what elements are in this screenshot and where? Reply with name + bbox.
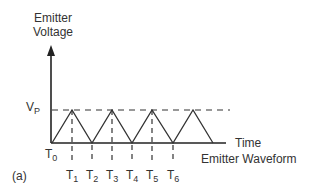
peak-voltage-label: VP bbox=[26, 100, 40, 115]
y-axis-label: Emitter Voltage bbox=[33, 11, 73, 39]
panel-label: (a) bbox=[12, 169, 27, 183]
triangle-waveform bbox=[52, 110, 213, 143]
time-label-t6: T6 bbox=[167, 168, 179, 183]
time-label-t3: T3 bbox=[106, 168, 118, 183]
time-label-t4: T4 bbox=[126, 168, 138, 183]
y-axis-label-line2: Voltage bbox=[33, 25, 73, 39]
y-axis-label-line1: Emitter bbox=[33, 11, 73, 25]
time-label-t2: T2 bbox=[86, 168, 98, 183]
caption: Emitter Waveform bbox=[201, 152, 297, 166]
time-label-t1: T1 bbox=[66, 168, 78, 183]
origin-label: T0 bbox=[45, 147, 57, 162]
y-axis-arrow-icon bbox=[47, 45, 55, 56]
time-markers bbox=[72, 110, 173, 163]
time-label-t5: T5 bbox=[146, 168, 158, 183]
x-axis-label: Time bbox=[235, 136, 261, 150]
